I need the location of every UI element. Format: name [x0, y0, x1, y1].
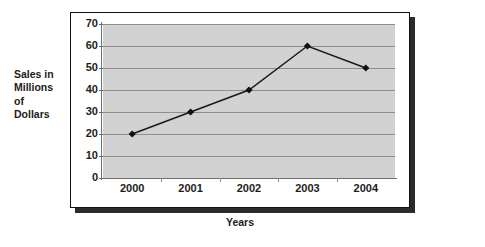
y-tick-label: 40 — [72, 84, 98, 95]
y-tick-label: 60 — [72, 40, 98, 51]
y-tick-mark — [99, 156, 103, 157]
x-tick-mark — [220, 178, 221, 182]
x-tick-mark — [278, 178, 279, 182]
y-tick-label: 30 — [72, 106, 98, 117]
x-tick-mark — [337, 178, 338, 182]
y-tick-mark — [99, 24, 103, 25]
gridline — [103, 90, 395, 91]
gridline — [103, 134, 395, 135]
gridline — [103, 24, 395, 25]
gridline — [103, 46, 395, 47]
y-tick-label: 0 — [72, 172, 98, 183]
y-tick-mark — [99, 178, 103, 179]
plot-area — [103, 24, 395, 178]
y-tick-mark — [99, 112, 103, 113]
gridline — [103, 68, 395, 69]
y-tick-mark — [99, 46, 103, 47]
y-tick-mark — [99, 90, 103, 91]
gridlines — [103, 24, 395, 178]
y-tick-label: 10 — [72, 150, 98, 161]
x-tick-label: 2000 — [109, 182, 155, 194]
y-tick-mark — [99, 68, 103, 69]
y-tick-label: 20 — [72, 128, 98, 139]
gridline — [103, 156, 395, 157]
x-axis-line — [101, 178, 397, 179]
y-tick-label: 70 — [72, 18, 98, 29]
x-tick-label: 2004 — [343, 182, 389, 194]
x-axis-title: Years — [70, 216, 410, 228]
x-tick-label: 2003 — [284, 182, 330, 194]
y-tick-mark — [99, 134, 103, 135]
y-tick-label: 50 — [72, 62, 98, 73]
frame-shadow-bottom — [75, 208, 415, 213]
x-tick-mark — [161, 178, 162, 182]
frame-shadow-right — [410, 17, 415, 213]
x-tick-label: 2001 — [168, 182, 214, 194]
x-tick-label: 2002 — [226, 182, 272, 194]
gridline — [103, 112, 395, 113]
y-axis-title: Sales in Millions of Dollars — [14, 68, 70, 122]
